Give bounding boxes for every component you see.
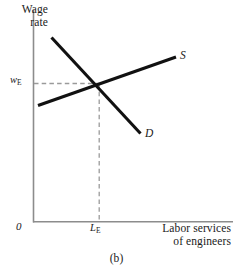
equilibrium-quantity-subscript: E xyxy=(96,226,101,235)
demand-curve xyxy=(52,38,141,134)
supply-curve-label: S xyxy=(180,49,186,62)
figure-panel-b: Wage rate Labor services of engineers 0 … xyxy=(0,0,233,273)
panel-caption: (b) xyxy=(0,252,233,265)
equilibrium-quantity-label: LE xyxy=(90,222,101,234)
x-axis-label: Labor services of engineers xyxy=(131,222,231,248)
origin-label: 0 xyxy=(16,220,22,232)
y-axis-label: Wage rate xyxy=(2,3,48,29)
equilibrium-wage-label: wE xyxy=(10,74,22,86)
demand-curve-label: D xyxy=(145,127,153,140)
equilibrium-wage-subscript: E xyxy=(17,78,22,87)
